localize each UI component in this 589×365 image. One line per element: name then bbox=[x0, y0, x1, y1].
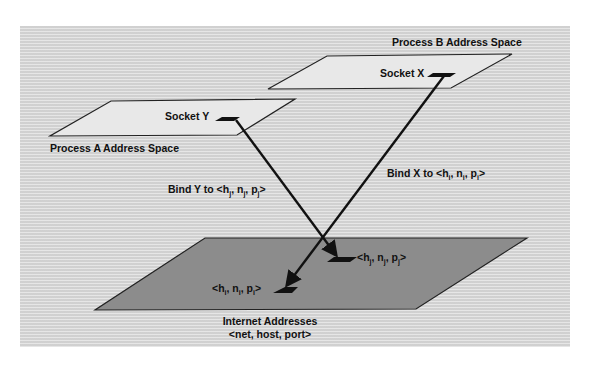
socket-x-label: Socket X bbox=[380, 67, 424, 79]
diagram-canvas bbox=[0, 0, 589, 365]
process-b-label: Process B Address Space bbox=[392, 36, 522, 48]
bind-x-label: Bind X to <hi, ni, pi> bbox=[387, 167, 485, 181]
bind-y-label: Bind Y to <hj, nj, pj> bbox=[168, 183, 266, 197]
internet-addresses-format: <net, host, port> bbox=[210, 328, 330, 340]
internet-addresses-title: Internet Addresses bbox=[210, 315, 330, 327]
addr-j-label: <hj, nj, pj> bbox=[357, 251, 406, 265]
internet-plane bbox=[95, 238, 527, 310]
addr-i-label: <hi, ni, pi> bbox=[212, 282, 261, 296]
socket-y-label: Socket Y bbox=[165, 110, 209, 122]
process-a-label: Process A Address Space bbox=[50, 142, 179, 154]
